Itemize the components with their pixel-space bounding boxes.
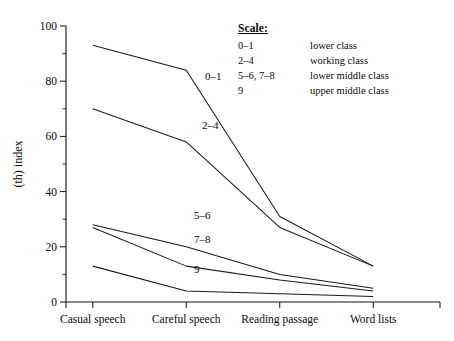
y-axis-tick-label: 20 xyxy=(46,241,58,253)
series-label-5-6: 5–6 xyxy=(194,209,211,221)
legend-range: 2–4 xyxy=(238,54,310,69)
series-line-2-4 xyxy=(93,109,374,266)
y-axis-tick-label: 60 xyxy=(46,130,58,142)
legend-row: 5–6, 7–8lower middle class xyxy=(238,69,389,84)
legend-row: 2–4working class xyxy=(238,54,389,69)
y-axis-tick-label: 0 xyxy=(51,296,57,308)
chart-figure: 020406080100 Casual speechCareful speech… xyxy=(0,0,454,341)
series-labels: 0–12–45–67–89 xyxy=(194,70,222,275)
x-axis-tick-label: Casual speech xyxy=(60,313,126,326)
y-axis-title: (th) index xyxy=(11,141,25,188)
y-axis-tick-label: 80 xyxy=(46,75,58,87)
legend-row: 0–1lower class xyxy=(238,39,389,54)
legend-row: 9upper middle class xyxy=(238,84,389,99)
x-axis: Casual speechCareful speechReading passa… xyxy=(60,302,440,326)
x-axis-tick-label: Word lists xyxy=(350,313,397,325)
series-label-2-4: 2–4 xyxy=(202,119,219,131)
series-label-9: 9 xyxy=(194,263,200,275)
y-axis-tick-label: 100 xyxy=(40,20,58,32)
series-label-7-8: 7–8 xyxy=(194,233,211,245)
legend-range: 9 xyxy=(238,84,310,99)
legend-class-label: lower middle class xyxy=(310,69,389,84)
series-line-9 xyxy=(93,266,374,296)
series-label-0-1: 0–1 xyxy=(205,70,222,82)
legend-table: 0–1lower class2–4working class5–6, 7–8lo… xyxy=(238,39,389,99)
legend-class-label: upper middle class xyxy=(310,84,389,99)
legend-class-label: lower class xyxy=(310,39,389,54)
legend-range: 0–1 xyxy=(238,39,310,54)
series-line-7-8 xyxy=(93,227,374,290)
x-axis-tick-label: Reading passage xyxy=(241,313,318,326)
x-axis-tick-label: Careful speech xyxy=(152,313,221,326)
legend: Scale: 0–1lower class2–4working class5–6… xyxy=(238,22,443,99)
legend-title: Scale: xyxy=(238,22,443,34)
legend-class-label: working class xyxy=(310,54,389,69)
y-axis-label: (th) index xyxy=(11,141,25,188)
series-line-5-6 xyxy=(93,225,374,288)
y-axis: 020406080100 xyxy=(40,20,66,308)
legend-range: 5–6, 7–8 xyxy=(238,69,310,84)
y-axis-tick-label: 40 xyxy=(46,186,58,198)
